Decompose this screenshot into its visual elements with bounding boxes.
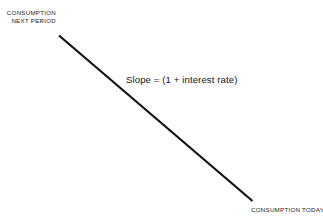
budget-constraint-figure: CONSUMPTION NEXT PERIOD Slope = (1 + int…: [0, 0, 323, 224]
x-axis-label: CONSUMPTION TODAY: [251, 206, 323, 214]
y-axis-label: CONSUMPTION NEXT PERIOD: [0, 9, 56, 25]
budget-constraint-line: [59, 36, 253, 202]
plot-area: [0, 0, 323, 224]
y-axis-label-line-2: NEXT PERIOD: [0, 17, 56, 25]
y-axis-label-line-1: CONSUMPTION: [0, 9, 56, 17]
slope-annotation-label: Slope = (1 + interest rate): [126, 74, 238, 86]
